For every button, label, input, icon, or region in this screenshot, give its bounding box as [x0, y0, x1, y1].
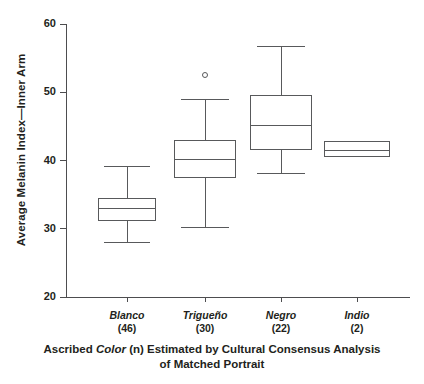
x-axis-caption-line-2: of Matched Portrait	[20, 357, 404, 372]
box-iqr	[324, 141, 390, 157]
median-line	[324, 150, 390, 151]
caption-pre: Ascribed	[44, 343, 96, 355]
x-axis-category-label: Indio(2)	[302, 309, 412, 335]
boxplot-figure: Average Melanin Index—Inner Arm 20304050…	[0, 0, 424, 384]
x-axis-caption-line-1: Ascribed Color (n) Estimated by Cultural…	[20, 342, 404, 357]
caption-post: (n) Estimated by Cultural Consensus Anal…	[126, 343, 381, 355]
category-name: Indio	[302, 309, 412, 322]
caption-emphasis: Color	[96, 343, 126, 355]
x-axis-tick	[357, 297, 358, 302]
category-count: (2)	[302, 322, 412, 335]
x-axis-caption: Ascribed Color (n) Estimated by Cultural…	[20, 342, 404, 372]
